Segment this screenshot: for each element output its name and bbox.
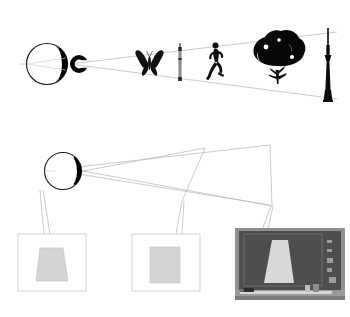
pen-silhouette <box>178 43 182 81</box>
runner-silhouette <box>206 43 224 81</box>
intermediate-image-panel <box>132 234 200 291</box>
trapezoid-shape <box>36 248 68 281</box>
marker <box>313 284 319 292</box>
retinal-image-panel <box>18 234 86 291</box>
eraser <box>243 288 254 292</box>
landolt-c-ring <box>66 51 94 77</box>
eye-lower <box>45 153 85 190</box>
eye-upper <box>27 44 70 85</box>
visual-angle-panel <box>20 28 337 102</box>
tower-silhouette <box>323 28 333 102</box>
optics-figure: Visual angle and perspective projection … <box>0 0 350 317</box>
rectangle-shape <box>150 247 180 283</box>
tree-silhouette <box>253 30 305 84</box>
perspective-projection-panel <box>18 145 345 300</box>
chalk-stick <box>305 285 310 292</box>
blackboard <box>235 228 345 300</box>
figure-canvas <box>0 0 350 317</box>
